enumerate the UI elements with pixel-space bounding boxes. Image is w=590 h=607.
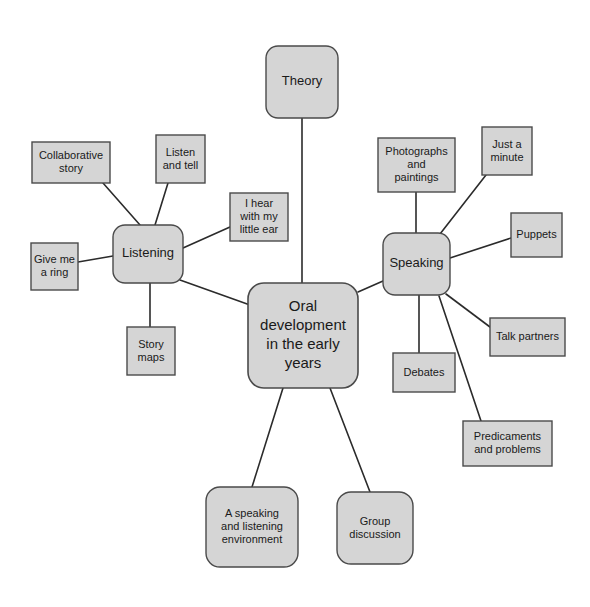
node-photographs-and-paintings[interactable]: Photographsandpaintings — [378, 138, 455, 192]
edge-collab-listening — [103, 183, 140, 225]
edge-puppets-speaking — [450, 238, 511, 258]
node-debates[interactable]: Debates — [393, 353, 455, 392]
node-layer: CollaborativestoryListenand tellI hearwi… — [31, 46, 565, 567]
node-predicaments-and-problems[interactable]: Predicamentsand problems — [463, 421, 552, 466]
node-label-listening: Listening — [122, 245, 174, 260]
edge-group-central — [330, 388, 370, 492]
mind-map-diagram: CollaborativestoryListenand tellI hearwi… — [0, 0, 590, 607]
node-label-debates: Debates — [404, 365, 445, 377]
node-label-just-a-minute: Just aminute — [490, 137, 523, 162]
node-label-speaking-listening-environment: A speakingand listeningenvironment — [221, 507, 283, 545]
edge-environment-central — [252, 388, 283, 487]
edge-ihear-listening — [183, 227, 230, 248]
node-label-puppets: Puppets — [516, 228, 557, 240]
node-story-maps[interactable]: Storymaps — [127, 327, 175, 375]
node-listening[interactable]: Listening — [113, 225, 183, 283]
node-label-listen-and-tell: Listenand tell — [163, 145, 198, 170]
node-speaking[interactable]: Speaking — [383, 233, 450, 295]
node-i-hear-with-my-little-ear[interactable]: I hearwith mylittle ear — [230, 193, 288, 241]
edge-speaking-central — [358, 281, 383, 292]
node-label-i-hear-with-my-little-ear: I hearwith mylittle ear — [239, 197, 278, 235]
mind-map-canvas: CollaborativestoryListenand tellI hearwi… — [0, 0, 590, 607]
edge-givering-listening — [78, 256, 113, 262]
node-speaking-listening-environment[interactable]: A speakingand listeningenvironment — [206, 487, 298, 567]
edge-talkpartners-speaking — [446, 294, 490, 327]
node-label-predicaments-and-problems: Predicamentsand problems — [474, 430, 542, 455]
node-label-speaking: Speaking — [389, 255, 443, 270]
node-group-discussion[interactable]: Groupdiscussion — [337, 492, 413, 564]
node-talk-partners[interactable]: Talk partners — [490, 318, 565, 356]
node-listen-and-tell[interactable]: Listenand tell — [156, 135, 205, 183]
edge-listentell-listening — [155, 183, 168, 225]
node-label-story-maps: Storymaps — [138, 337, 165, 362]
node-theory[interactable]: Theory — [266, 46, 338, 118]
node-central[interactable]: Oraldevelopmentin the earlyyears — [248, 283, 358, 388]
node-just-a-minute[interactable]: Just aminute — [482, 127, 532, 175]
edge-listening-central — [180, 280, 250, 305]
node-collaborative-story[interactable]: Collaborativestory — [32, 142, 110, 183]
node-label-theory: Theory — [282, 73, 323, 88]
node-puppets[interactable]: Puppets — [511, 213, 562, 257]
node-label-talk-partners: Talk partners — [496, 330, 559, 342]
node-give-me-a-ring[interactable]: Give mea ring — [31, 243, 78, 290]
